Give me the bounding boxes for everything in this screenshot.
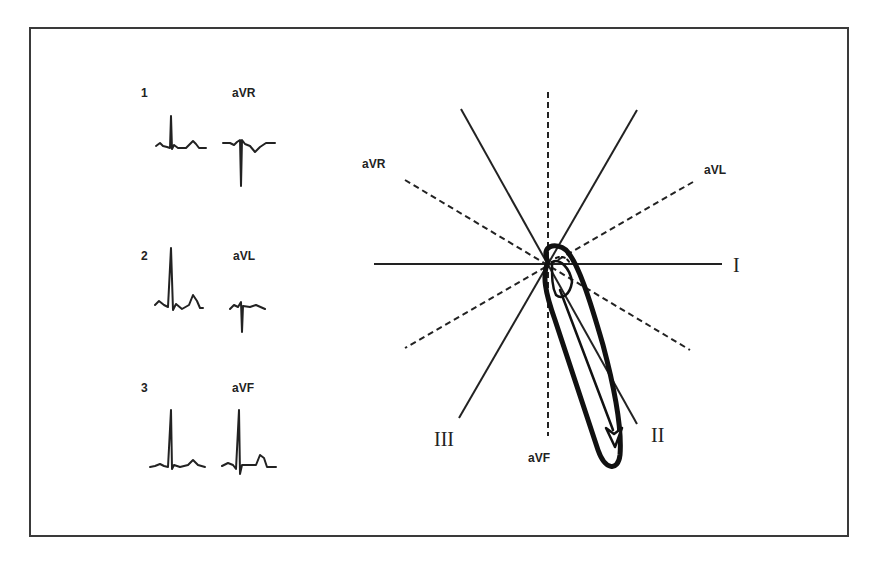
hexaxial-label-aVL: aVL — [704, 163, 726, 177]
ecg-trace-aVL — [230, 302, 265, 332]
hexaxial-label-I: I — [733, 254, 740, 277]
ecg-trace-aVR — [223, 140, 275, 186]
ecg-trace-aVF — [222, 410, 276, 474]
limb-lead-label-1: 1 — [141, 86, 148, 100]
augmented-lead-label-aVF: aVF — [232, 381, 254, 395]
hexaxial-label-II: II — [651, 424, 664, 447]
limb-lead-label-3: 3 — [141, 381, 148, 395]
hexaxial-label-aVR: aVR — [362, 157, 385, 171]
diagram-canvas — [0, 0, 875, 563]
limb-lead-label-2: 2 — [141, 249, 148, 263]
ecg-trace-lead-2 — [155, 248, 203, 310]
augmented-lead-label-aVR: aVR — [232, 86, 255, 100]
augmented-lead-label-aVL: aVL — [233, 249, 255, 263]
ecg-trace-lead-3 — [150, 410, 205, 469]
ecg-trace-lead-1 — [156, 116, 206, 149]
hexaxial-label-aVF: aVF — [528, 451, 550, 465]
hexaxial-label-III: III — [434, 428, 454, 451]
